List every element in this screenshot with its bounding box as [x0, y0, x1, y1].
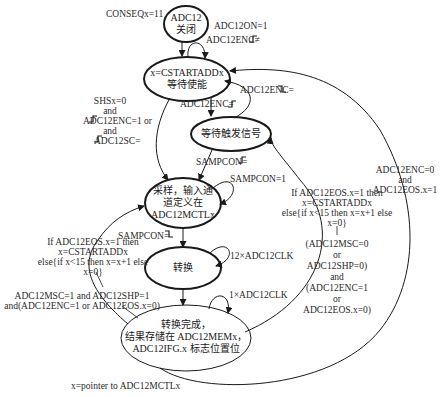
state-sample-line1: 采样，输入通 — [145, 185, 221, 197]
state-wait-enable-text: x=CSTARTADDx 等待使能 — [144, 67, 230, 91]
label-enc-rise: ADC12ENC= — [180, 99, 234, 110]
state-off-line2: 关闭 — [164, 24, 208, 36]
footnote: x=pointer to ADC12MCTLx — [71, 381, 180, 392]
state-done-text: 转换完成， 结果存储在 ADC12MEMx， ADC12IFG.x 标志位置位 — [121, 319, 251, 355]
state-wait-trigger-text: 等待触发信号 — [191, 128, 271, 140]
state-done-line2: 结果存储在 ADC12MEMx， — [121, 331, 251, 343]
label-msc-mid-3: ADC12SHP=0) — [292, 261, 382, 272]
state-off-text: ADC12 关闭 — [164, 12, 208, 36]
state-sample-line2: 道定义在 — [145, 197, 221, 209]
label-eos-mid-4: x=0} — [272, 218, 402, 229]
label-msc-mid-5: (ADC12ENC=1 — [292, 283, 382, 294]
state-done-line3: ADC12IFG.x 标志位置位 — [121, 343, 251, 355]
label-shs-line5: ADC12SC= — [94, 136, 141, 147]
label-msc-mid-2: or — [292, 250, 382, 261]
label-msc-mid-1: (ADC12MSC=0 — [292, 239, 382, 250]
label-eos-left-4: x=0} — [28, 267, 158, 278]
label-msc-left-2: and(ADC12ENC=1 or ADC12EOS.x=0) — [2, 301, 162, 312]
label-enc-fall: ADC12ENC= — [240, 85, 294, 96]
label-sampcon-1: SAMPCON=1 — [230, 174, 286, 185]
label-msc-mid-4: and — [292, 272, 382, 283]
state-done-line1: 转换完成， — [121, 319, 251, 331]
state-wait-trigger-line1: 等待触发信号 — [191, 128, 271, 140]
state-wait-enable-line1: x=CSTARTADDx — [144, 67, 230, 79]
state-sample-line3: ADC12MCTLx — [145, 209, 221, 221]
label-msc-mid-6: or — [292, 294, 382, 305]
label-12-clk: 12×ADC12CLK — [230, 251, 293, 262]
label-enc0-3: ADC12EOS.x=1 — [370, 185, 440, 196]
label-adc12on: ADC12ON=1 — [214, 21, 267, 32]
label-msc-mid-7: ADC12EOS.x=0) — [292, 305, 382, 316]
label-1-clk: 1×ADC12CLK — [229, 290, 288, 301]
label-conseq: CONSEQx=11 — [106, 9, 163, 20]
state-off-line1: ADC12 — [164, 12, 208, 24]
label-enc-not-rise: ADC12ENC≠ — [206, 35, 260, 46]
state-wait-enable-line2: 等待使能 — [144, 79, 230, 91]
label-sampcon-rise: SAMPCON= — [196, 157, 247, 168]
state-sample-text: 采样，输入通 道定义在 ADC12MCTLx — [145, 185, 221, 221]
